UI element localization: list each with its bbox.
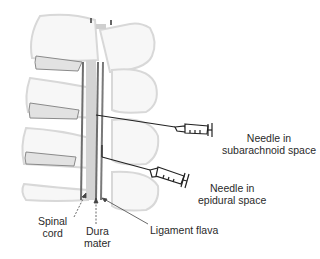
label-line: epidural space — [198, 194, 266, 206]
label-line: subarachnoid space — [222, 144, 316, 156]
label-needle-epidural: Needle in epidural space — [198, 182, 266, 206]
label-line: Spinal — [38, 215, 67, 227]
label-line: mater — [84, 237, 111, 249]
spinal-canal — [81, 60, 103, 200]
label-spinal-cord: Spinal cord — [38, 215, 67, 239]
label-ligament-flava: Ligament flava — [150, 224, 218, 236]
label-line: Needle in — [198, 182, 266, 194]
label-line: Dura — [84, 225, 111, 237]
label-line: Needle in — [222, 132, 316, 144]
label-dura-mater: Dura mater — [84, 225, 111, 249]
label-line: cord — [38, 227, 67, 239]
label-needle-subarachnoid: Needle in subarachnoid space — [222, 132, 316, 156]
